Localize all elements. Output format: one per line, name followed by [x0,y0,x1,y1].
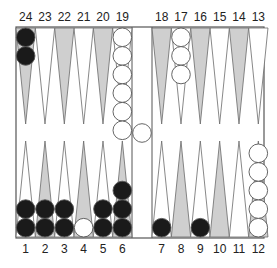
point-label-17: 17 [171,10,191,24]
point-label-2: 2 [35,242,55,256]
point-label-22: 22 [54,10,74,24]
black-checker[interactable] [16,47,35,66]
point-label-14: 14 [229,10,249,24]
point-label-4: 4 [74,242,94,256]
point-label-11: 11 [229,242,249,256]
black-checker[interactable] [113,181,132,200]
black-checker[interactable] [113,200,132,219]
black-checker[interactable] [55,218,74,237]
black-checker[interactable] [113,218,132,237]
point-label-13: 13 [248,10,268,24]
point-label-6: 6 [112,242,132,256]
black-checker[interactable] [191,218,210,237]
black-checker[interactable] [36,218,55,237]
white-checker[interactable] [113,102,132,121]
point-label-16: 16 [190,10,210,24]
point-label-19: 19 [112,10,132,24]
white-checker[interactable] [172,65,191,84]
point-label-7: 7 [152,242,172,256]
point-label-5: 5 [93,242,113,256]
white-checker[interactable] [113,65,132,84]
point-label-15: 15 [210,10,230,24]
point-label-8: 8 [171,242,191,256]
black-checker[interactable] [36,200,55,219]
point-label-10: 10 [210,242,230,256]
black-checker[interactable] [16,218,35,237]
point-label-9: 9 [190,242,210,256]
black-checker[interactable] [152,218,171,237]
white-checker[interactable] [249,144,268,163]
point-label-20: 20 [93,10,113,24]
point-label-12: 12 [248,242,268,256]
point-label-23: 23 [35,10,55,24]
point-label-3: 3 [54,242,74,256]
white-checker[interactable] [249,200,268,219]
bar-white-checker[interactable] [133,124,152,143]
white-checker[interactable] [74,218,93,237]
white-checker[interactable] [172,28,191,47]
black-checker[interactable] [16,28,35,47]
white-checker[interactable] [249,181,268,200]
white-checker[interactable] [113,28,132,47]
white-checker[interactable] [113,84,132,103]
point-label-21: 21 [74,10,94,24]
white-checker[interactable] [113,47,132,66]
black-checker[interactable] [94,200,113,219]
white-checker[interactable] [249,163,268,182]
point-label-18: 18 [152,10,172,24]
black-checker[interactable] [94,218,113,237]
black-checker[interactable] [16,200,35,219]
point-label-24: 24 [16,10,36,24]
white-checker[interactable] [113,121,132,140]
black-checker[interactable] [55,200,74,219]
point-label-1: 1 [16,242,36,256]
backgammon-board [0,0,277,268]
white-checker[interactable] [172,47,191,66]
white-checker[interactable] [249,218,268,237]
